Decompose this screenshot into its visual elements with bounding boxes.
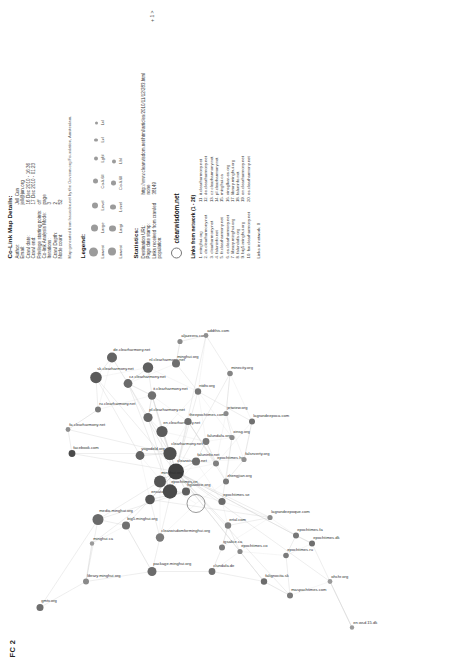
graph-node[interactable] [143, 412, 152, 421]
graph-edge [240, 551, 286, 555]
graph-node[interactable] [156, 533, 164, 541]
graph-node[interactable] [203, 438, 210, 445]
graph-node[interactable] [227, 370, 233, 376]
graph-node-label: fa.clearharmony.net [69, 421, 106, 426]
legend-label: Level [100, 200, 105, 210]
graph-edge [212, 571, 264, 581]
graph-node-label: addthis.com [207, 327, 230, 332]
graph-node-label: falsnverty.org [245, 451, 270, 456]
legend-item: Co-li.6ll [111, 175, 123, 189]
graph-node[interactable] [283, 552, 289, 558]
graph-node[interactable] [225, 522, 231, 528]
graph-node[interactable] [148, 391, 156, 399]
link-list-item[interactable]: 12. de.clearharmony.net [203, 156, 208, 202]
graph-node-label: en.clearharmony.net [163, 420, 201, 425]
statistics-title: Statistics: [132, 8, 139, 258]
graph-node[interactable] [148, 567, 157, 576]
link-list-item[interactable]: 20. es.clearharmony.net [246, 156, 251, 202]
graph-node[interactable] [328, 579, 333, 584]
link-list-item[interactable]: 19. en.clearharmony.net [240, 156, 245, 202]
graph-edge [126, 525, 152, 571]
legend-item: Largi [109, 223, 123, 232]
legend: Legend: LowestLargeLevelCo-li.6llLgblLvl… [79, 8, 123, 258]
graph-node[interactable] [218, 497, 225, 504]
graph-node[interactable] [95, 406, 101, 412]
links-list-left[interactable]: 1. minghui.org2. de.clearharmony.net3. c… [198, 212, 251, 258]
graph-node[interactable] [223, 410, 228, 415]
graph-node-label: theepochtimes.com [189, 412, 225, 417]
graph-node[interactable] [163, 484, 177, 498]
scale-indicator: + 1 > [150, 10, 154, 21]
links-list-right[interactable]: 11. it.clearharmony.net12. de.clearharmo… [198, 156, 251, 202]
graph-node[interactable] [37, 604, 44, 611]
graph-node-label: ohchr.org [331, 573, 349, 578]
graph-node[interactable] [309, 540, 315, 546]
legend-label: Level [118, 201, 123, 211]
graph-edge [126, 525, 152, 571]
graph-node[interactable] [90, 371, 102, 383]
graph-edge [152, 395, 162, 431]
legend-row-secondary: LowestLargiLevelCo-li.6llLbl [108, 8, 123, 258]
legend-dot-icon [110, 204, 116, 210]
graph-node[interactable] [182, 487, 190, 495]
graph-node[interactable] [66, 427, 71, 432]
graph-edge [206, 335, 230, 373]
graph-node-label: zhengjian.org [227, 473, 252, 478]
graph-node[interactable] [93, 514, 104, 525]
graph-node-label: epochtimes.fa [297, 527, 323, 532]
legend-row-primary: LowestLargeLevelCo-li.6llLgblLvlLvl [89, 8, 105, 258]
network-graph[interactable]: gmtv.orglibrary.minghui.orgminghui.camed… [0, 247, 460, 667]
links-list-title: Links from network (1 - 20) [190, 8, 196, 258]
legend-item: Level [92, 200, 105, 210]
graph-edge [68, 429, 72, 453]
graph-node[interactable] [163, 446, 176, 459]
legend-item: Lbl [112, 158, 123, 164]
graph-node[interactable] [267, 514, 272, 519]
graph-node[interactable] [293, 532, 299, 538]
link-list-item[interactable]: 5. fr.clearharmony.net [219, 212, 224, 258]
graph-edge [264, 581, 290, 595]
graph-node[interactable] [83, 578, 89, 584]
graph-node[interactable] [124, 379, 133, 388]
legend-item: Lowest [89, 245, 105, 258]
legend-dot-icon [93, 179, 98, 184]
legend-item: Lvl [94, 137, 104, 142]
selected-node-name: clearwisdom.net [173, 193, 180, 243]
graph-node[interactable] [122, 521, 130, 529]
graph-node[interactable] [69, 450, 76, 457]
graph-node[interactable] [107, 352, 117, 362]
graph-node-label: epochtimes.se [223, 492, 250, 497]
graph-node-label: pl.clearharmony.net [149, 407, 186, 412]
graph-node[interactable] [136, 451, 145, 460]
graph-node-label: ntdtv.org [199, 382, 215, 387]
legend-label: Lvl [100, 119, 105, 124]
legend-label: Co-li.6ll [118, 175, 123, 189]
details-field-key: Node count: [58, 204, 63, 258]
legend-title: Legend: [79, 8, 86, 258]
graph-node[interactable] [350, 625, 354, 629]
link-list-item[interactable]: 10. fsv.clearharmony.net [246, 212, 251, 258]
graph-node-label: clearwisdomforminghui.org [161, 527, 211, 532]
graph-node-label: gmtv.org [41, 598, 57, 603]
graph-node-label: library.minghui.org [87, 573, 121, 578]
graph-node[interactable] [177, 338, 182, 343]
graph-node-label: epochtimes.cn [171, 478, 198, 483]
node-marker-icon [171, 247, 182, 258]
graph-node-label: epochtimes.hu [217, 455, 244, 460]
info-column: Co-Link Map Details: Author:Jell CunEmai… [6, 8, 261, 258]
statistics-rows: Destination URL:http://www.clearwisdom.n… [141, 8, 163, 258]
link-list-item[interactable]: 2. de.clearharmony.net [203, 212, 208, 258]
graph-node[interactable] [90, 541, 94, 545]
legend-dot-icon [94, 156, 98, 160]
graph-edge [222, 437, 232, 501]
graph-node[interactable] [209, 568, 216, 575]
graph-node[interactable] [287, 592, 293, 598]
legend-item: Co-li.6ll [93, 174, 105, 188]
graph-nodes[interactable]: gmtv.orglibrary.minghui.orgminghui.camed… [37, 327, 379, 629]
graph-node-label: yogodeld.org [141, 445, 165, 450]
graph-node[interactable] [143, 362, 153, 372]
legend-dot-icon [92, 202, 98, 208]
graph-node[interactable] [219, 544, 225, 550]
legend-label: Lowest [100, 245, 105, 258]
graph-node[interactable] [249, 418, 255, 424]
